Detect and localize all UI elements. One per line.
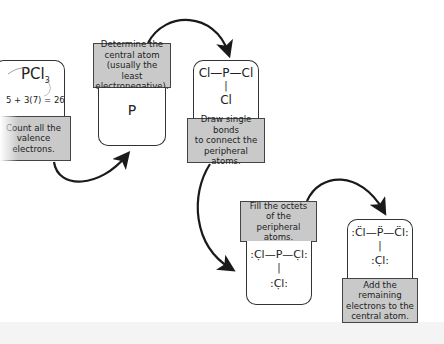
structure-top: :C̣l—P—C̣l: [247,248,311,261]
step-4-label: Fill the octets of the peripheral atoms. [240,201,317,242]
label-line: (usually the least [95,60,168,81]
structure-top: :C̈l—P̈—C̈l: [348,226,412,239]
step-2-label: Determine the central atom (usually the … [93,43,171,88]
structure-bond: | [348,240,412,251]
structure-bond: | [247,262,311,273]
label-line: Fill the octets [243,201,314,212]
arrow-4-to-5 [307,180,383,210]
structure-top: Cl—P—Cl [194,66,258,80]
label-line: Add the remaining [345,280,415,301]
step-4-card: :C̣l—P—C̣l: | :C̣l: [246,241,312,305]
step-5-card: :C̈l—P̈—C̈l: | :C̣l: [347,219,413,280]
central-atom: P [99,102,165,118]
left-edge-fade [0,110,18,166]
label-line: Draw single bonds [190,114,262,135]
arrow-3-to-4 [198,164,230,268]
step-3-label: Draw single bonds to connect the periphe… [187,118,265,163]
step-5-label: Add the remaining electrons to the centr… [342,278,418,323]
label-line: peripheral atoms. [190,146,262,167]
label-line: central atom [95,50,168,61]
formula-annotation-curve [0,60,60,100]
structure-bottom: :C̣l: [348,254,412,267]
step-2-card: P [98,88,166,146]
structure-bottom: :C̣l: [247,277,311,290]
structure-bond: | [194,80,258,91]
label-line: to connect the [190,135,262,146]
label-line: electrons to the [345,301,415,312]
label-line: of the peripheral [243,211,314,232]
label-line: central atom. [345,311,415,322]
step-3-card: Cl—P—Cl | Cl [193,60,259,119]
structure-bottom: Cl [194,93,258,107]
label-line: Determine the [95,39,168,50]
